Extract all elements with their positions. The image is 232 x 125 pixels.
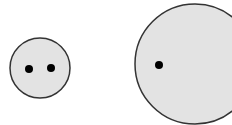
large-circle xyxy=(135,4,232,124)
small-circle xyxy=(10,38,70,98)
small-circle-dot-right xyxy=(47,64,55,72)
circles-diagram xyxy=(0,0,232,125)
small-circle-group xyxy=(10,38,70,98)
large-circle-group xyxy=(135,4,232,124)
large-circle-dot xyxy=(155,61,163,69)
small-circle-dot-left xyxy=(25,65,33,73)
